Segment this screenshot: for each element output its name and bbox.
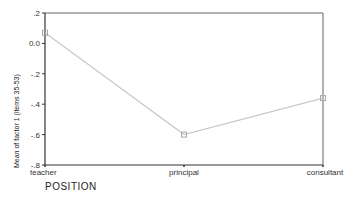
x-category-label: teacher bbox=[30, 168, 57, 177]
y-tick-label: -.2 bbox=[31, 70, 41, 79]
line-chart: .20.0-.2-.4-.6-.8 teacherprincipalconsul… bbox=[0, 0, 355, 205]
y-tick-label: -.6 bbox=[31, 131, 41, 140]
y-axis-label: Mean of factor 1 (items 35-53) bbox=[13, 74, 21, 168]
plot-frame bbox=[45, 13, 323, 165]
x-axis-label: POSITION bbox=[45, 181, 97, 192]
x-axis-ticks: teacherprincipalconsultant bbox=[30, 165, 344, 177]
x-category-label: consultant bbox=[307, 168, 344, 177]
y-tick-label: 0.0 bbox=[29, 39, 41, 48]
data-series bbox=[43, 30, 326, 137]
y-tick-label: -.4 bbox=[31, 100, 41, 109]
x-category-label: principal bbox=[169, 168, 199, 177]
y-tick-label: .2 bbox=[33, 9, 40, 18]
series-line bbox=[45, 33, 323, 135]
